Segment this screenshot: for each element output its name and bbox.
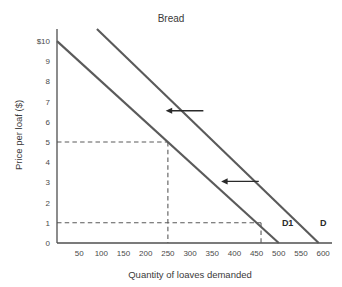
y-tick-label-1: 1 bbox=[46, 219, 51, 228]
x-tick-label-400: 400 bbox=[228, 249, 242, 258]
y-tick-label-6: 6 bbox=[46, 118, 51, 127]
x-tick-label-450: 450 bbox=[250, 249, 264, 258]
y-tick-label-3: 3 bbox=[46, 178, 51, 187]
demand-curves-group bbox=[57, 29, 319, 243]
x-tick-label-250: 250 bbox=[161, 249, 175, 258]
y-axis-tick-labels: 0123456789$10 bbox=[37, 37, 51, 248]
y-tick-label-5: 5 bbox=[46, 138, 51, 147]
x-axis-tick-labels: 50100150200250300350400450500550600 bbox=[75, 249, 331, 258]
shift-arrow-upper-head bbox=[166, 108, 173, 114]
x-tick-label-500: 500 bbox=[272, 249, 286, 258]
y-tick-label-$10: $10 bbox=[37, 37, 51, 46]
x-tick-label-150: 150 bbox=[117, 249, 131, 258]
demand-curve-D bbox=[97, 29, 319, 243]
y-tick-label-7: 7 bbox=[46, 98, 51, 107]
y-tick-label-0: 0 bbox=[46, 239, 51, 248]
demand-curve-labels-group: DD1 bbox=[282, 218, 327, 228]
x-tick-label-100: 100 bbox=[95, 249, 109, 258]
chart-canvas: Bread Price per loaf ($) Quantity of loa… bbox=[0, 0, 342, 287]
x-axis-title: Quantity of loaves demanded bbox=[128, 269, 252, 280]
x-tick-label-550: 550 bbox=[294, 249, 308, 258]
x-tick-label-200: 200 bbox=[139, 249, 153, 258]
demand-curve-label-D: D bbox=[320, 218, 327, 228]
y-tick-label-4: 4 bbox=[46, 158, 51, 167]
bread-demand-chart: Bread Price per loaf ($) Quantity of loa… bbox=[0, 0, 342, 287]
y-tick-label-8: 8 bbox=[46, 77, 51, 86]
x-tick-label-600: 600 bbox=[316, 249, 330, 258]
x-tick-label-300: 300 bbox=[183, 249, 197, 258]
shift-arrow-lower-head bbox=[221, 178, 228, 184]
demand-curve-label-D1: D1 bbox=[282, 218, 294, 228]
x-tick-label-50: 50 bbox=[75, 249, 84, 258]
y-tick-label-9: 9 bbox=[46, 57, 51, 66]
chart-title: Bread bbox=[158, 13, 185, 24]
y-axis-title: Price per loaf ($) bbox=[13, 100, 24, 170]
y-tick-label-2: 2 bbox=[46, 199, 51, 208]
x-tick-label-350: 350 bbox=[206, 249, 220, 258]
